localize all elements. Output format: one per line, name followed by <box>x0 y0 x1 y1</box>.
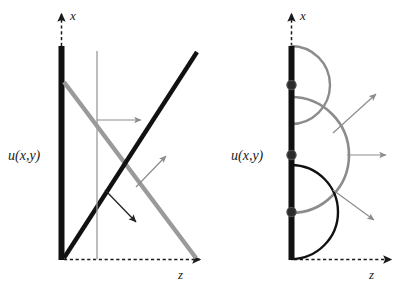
left-z-axis-label: z <box>177 267 183 282</box>
right-z-axis: z <box>294 260 391 283</box>
left-z-axis: z <box>64 260 200 283</box>
right-point-source-bottom <box>287 207 296 216</box>
left-outgoing-black-ray <box>64 52 197 258</box>
right-x-axis-label: x <box>299 8 306 23</box>
right-field-label: u(x,y) <box>231 148 264 164</box>
right-x-axis: x <box>292 8 307 46</box>
left-x-axis: x <box>62 8 77 46</box>
right-wavelet-arrow-up-right <box>333 94 376 133</box>
diagram-canvas: x z u(x,y) <box>0 0 395 286</box>
right-z-axis-label: z <box>368 267 374 282</box>
figure-root: x z u(x,y) <box>0 0 395 286</box>
right-wavelet-top-gray <box>291 46 330 124</box>
right-wavelet-arrow-down-right <box>333 190 374 220</box>
right-point-source-top <box>287 80 296 89</box>
right-point-source-middle <box>287 150 296 159</box>
left-x-axis-label: x <box>69 8 76 23</box>
right-panel: x z u(x,y) <box>231 8 391 282</box>
left-field-label: u(x,y) <box>8 148 41 164</box>
left-incoming-gray-ray <box>64 82 196 258</box>
left-panel: x z u(x,y) <box>8 8 200 282</box>
left-diagonal-black-arrow-down <box>105 190 136 222</box>
left-diagonal-gray-arrow-up <box>136 156 166 187</box>
left-boundary-bar <box>59 46 65 260</box>
